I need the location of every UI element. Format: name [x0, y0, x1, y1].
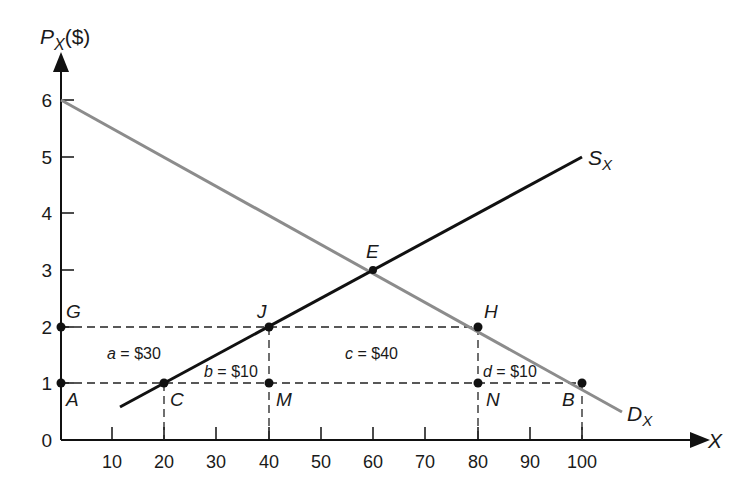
x-tick-label: 80 [468, 452, 488, 472]
annotation-b: b = $10 [204, 363, 258, 380]
y-tick-label: 3 [41, 260, 52, 281]
x-tick-label: 30 [206, 452, 226, 472]
y-tick-label: 5 [41, 147, 52, 168]
point-label-b: B [562, 389, 575, 410]
x-tick-label: 40 [259, 452, 279, 472]
x-tick-label: 60 [363, 452, 383, 472]
point-label-e: E [366, 241, 379, 262]
x-tick-label: 100 [567, 452, 597, 472]
point-label-g: G [66, 301, 81, 322]
y-tick-label: 6 [41, 90, 52, 111]
annotation-a: a = $30 [107, 345, 161, 362]
point-label-a: A [65, 389, 79, 410]
demand-label: DX [627, 402, 653, 429]
y-ticks [61, 100, 74, 383]
point-label-m: M [276, 389, 292, 410]
y-tick-label: 2 [41, 317, 52, 338]
point-label-c: C [170, 389, 184, 410]
point-label-n: N [486, 389, 500, 410]
chart-canvas: 0 1 2 3 4 5 6 10 20 30 40 50 60 70 80 90… [0, 0, 752, 487]
dashed-guides [61, 327, 582, 440]
x-axis-title: X [707, 429, 723, 452]
x-tick-label: 70 [415, 452, 435, 472]
demand-curve [61, 100, 622, 412]
x-tick-label: 20 [154, 452, 174, 472]
point-label-j: J [256, 301, 267, 322]
x-tick-label: 50 [311, 452, 331, 472]
point-label-h: H [484, 301, 498, 322]
y-axis-title: PX($) [40, 25, 90, 53]
annotation-d: d = $10 [483, 363, 537, 380]
y-tick-label: 1 [41, 373, 52, 394]
x-tick-label: 10 [102, 452, 122, 472]
annotation-c: c = $40 [345, 345, 398, 362]
supply-label: SX [588, 146, 613, 173]
y-tick-label: 0 [41, 430, 52, 451]
x-ticks [112, 427, 582, 440]
y-tick-label: 4 [41, 203, 52, 224]
x-tick-label: 90 [520, 452, 540, 472]
